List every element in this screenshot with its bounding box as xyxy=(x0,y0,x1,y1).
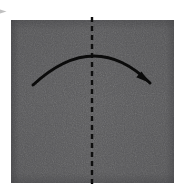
origami-diagram: Fold paper in half from left to right xyxy=(0,0,182,196)
diagram-canvas xyxy=(0,0,182,196)
